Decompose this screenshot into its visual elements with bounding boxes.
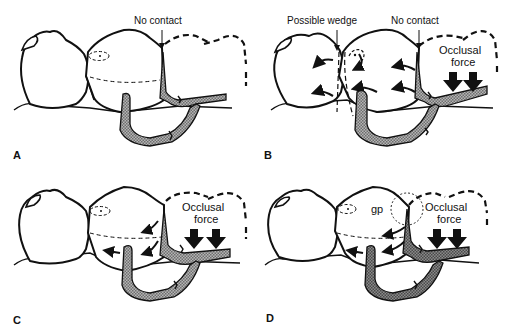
occlusal-force-arrow-1 — [184, 229, 204, 249]
occlusal-force-arrow-1 — [443, 72, 463, 92]
panel-c: Occlusal force C — [0, 167, 257, 334]
panel-label-d: D — [266, 312, 274, 324]
panel-label-c: C — [13, 314, 21, 326]
force-label: force — [451, 56, 475, 68]
panel-d-drawing: gp Occlusal force — [257, 167, 515, 335]
abutment-tooth — [339, 30, 419, 112]
proximal-plate — [160, 52, 226, 107]
no-contact-label: No contact — [391, 15, 439, 26]
possible-wedge-label: Possible wedge — [287, 15, 357, 26]
occlusal-force-arrow-1 — [427, 229, 447, 249]
force-label: force — [437, 213, 461, 225]
occlusal-force-arrow-2 — [447, 229, 467, 249]
no-contact-label: No contact — [134, 15, 182, 26]
panel-b: Possible wedge No contact Occlusal force… — [257, 0, 514, 167]
occlusal-force-arrow-2 — [206, 229, 226, 249]
panel-label-b: B — [264, 149, 272, 161]
gp-label: gp — [371, 203, 383, 215]
panel-label-a: A — [13, 149, 21, 161]
panel-b-drawing: Possible wedge No contact Occlusal force — [257, 0, 515, 167]
force-label: force — [194, 213, 218, 225]
panel-d: gp Occlusal force D — [257, 167, 514, 334]
occlusal-label: Occlusal — [439, 44, 481, 56]
occlusal-label: Occlusal — [182, 201, 224, 213]
panel-a: No contact A — [0, 0, 257, 167]
panel-c-drawing: Occlusal force — [0, 167, 257, 335]
occlusal-label: Occlusal — [425, 201, 467, 213]
panel-a-drawing: No contact — [0, 0, 257, 167]
